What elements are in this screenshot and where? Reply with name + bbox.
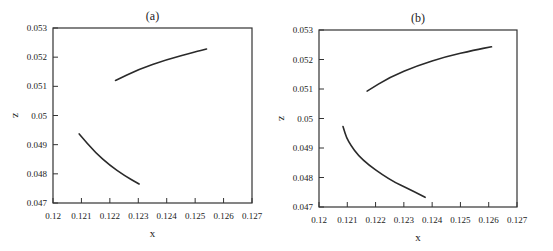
y-tick-label: 0.053 — [293, 25, 314, 35]
y-tick-label: 0.051 — [27, 81, 47, 91]
chart-title: (a) — [146, 9, 159, 23]
plot-frame — [53, 28, 252, 203]
chart-title: (b) — [411, 11, 425, 25]
x-tick-label: 0.125 — [450, 215, 471, 225]
y-tick-label: 0.051 — [293, 84, 313, 94]
plot-frame — [319, 30, 517, 207]
y-tick-label: 0.048 — [293, 173, 314, 183]
x-tick-label: 0.121 — [71, 211, 91, 221]
x-tick-label: 0.123 — [394, 215, 415, 225]
chart-panel-a: 0.120.1210.1220.1230.1240.1250.1260.1270… — [11, 9, 263, 239]
x-tick-label: 0.124 — [157, 211, 178, 221]
y-tick-label: 0.048 — [27, 169, 48, 179]
y-tick-label: 0.052 — [27, 52, 47, 62]
series-line-lower-branch — [79, 134, 139, 184]
y-tick-label: 0.049 — [293, 143, 314, 153]
series-line-upper-branch — [367, 47, 491, 91]
y-axis-label: z — [277, 116, 289, 121]
x-tick-label: 0.122 — [365, 215, 385, 225]
y-tick-label: 0.047 — [293, 202, 314, 212]
x-tick-label: 0.12 — [311, 215, 327, 225]
y-tick-label: 0.05 — [297, 114, 313, 124]
x-tick-label: 0.124 — [422, 215, 443, 225]
chart-panel-b: 0.120.1210.1220.1230.1240.1250.1260.1270… — [277, 11, 528, 243]
y-tick-label: 0.049 — [27, 140, 48, 150]
y-tick-label: 0.047 — [27, 198, 48, 208]
x-tick-label: 0.122 — [100, 211, 120, 221]
y-tick-label: 0.05 — [31, 111, 47, 121]
x-tick-label: 0.121 — [337, 215, 357, 225]
x-tick-label: 0.126 — [213, 211, 234, 221]
x-tick-label: 0.12 — [45, 211, 61, 221]
figure: 0.120.1210.1220.1230.1240.1250.1260.1270… — [0, 0, 553, 251]
y-tick-label: 0.053 — [27, 23, 48, 33]
x-axis-label: x — [415, 231, 421, 243]
x-tick-label: 0.125 — [185, 211, 206, 221]
x-tick-label: 0.126 — [479, 215, 500, 225]
series-line-upper-branch — [116, 49, 207, 81]
x-tick-label: 0.123 — [128, 211, 149, 221]
x-tick-label: 0.127 — [507, 215, 528, 225]
x-tick-label: 0.127 — [242, 211, 263, 221]
y-axis-label: z — [11, 113, 23, 118]
x-axis-label: x — [150, 227, 156, 239]
series-line-lower-branch — [343, 127, 425, 198]
y-tick-label: 0.052 — [293, 55, 313, 65]
